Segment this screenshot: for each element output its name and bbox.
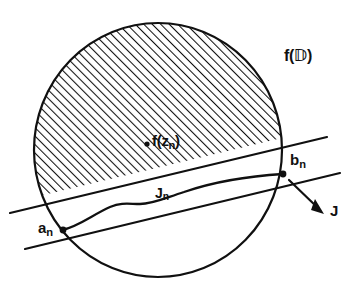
blackboard-d-glyph: 𝔻 [294,46,307,65]
marker-f-zn [144,141,149,146]
label-j: J [330,203,338,218]
label-bn: bn [290,152,306,167]
label-f-of-zn: f(zn) [152,133,180,148]
figure-canvas: f(𝔻) f(zn) bn an Jn J [0,0,351,291]
marker-bn [280,171,287,178]
label-jn: Jn [155,186,169,200]
marker-an [60,227,67,234]
arrow-j [289,180,324,214]
label-an: an [38,220,53,235]
label-f-of-disk: f(𝔻) [284,48,312,64]
